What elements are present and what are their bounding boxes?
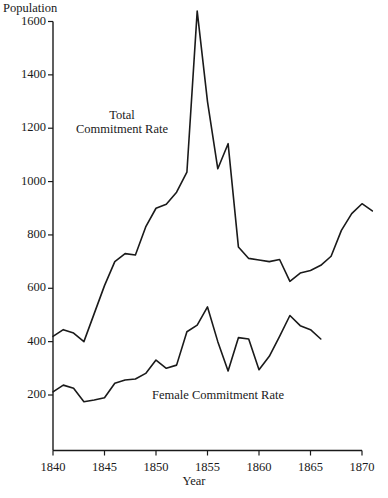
- axis-lines: [53, 22, 362, 451]
- y-tick-label: 400: [2, 334, 46, 349]
- y-tick-label: 1600: [2, 14, 46, 29]
- y-tick-label: 1000: [2, 174, 46, 189]
- x-tick-label: 1850: [134, 460, 178, 475]
- series-line: [53, 307, 321, 402]
- data-lines: [53, 11, 372, 402]
- x-tick-label: 1865: [289, 460, 333, 475]
- x-tick-label: 1860: [237, 460, 281, 475]
- x-tick-label: 1870: [340, 460, 384, 475]
- plot-area: [0, 0, 388, 498]
- y-tick-label: 200: [2, 387, 46, 402]
- x-tick-label: 1855: [186, 460, 230, 475]
- y-tick-label: 1200: [2, 120, 46, 135]
- x-tick-label: 1845: [83, 460, 127, 475]
- y-tick-label: 800: [2, 227, 46, 242]
- y-tick-label: 600: [2, 280, 46, 295]
- x-tick-label: 1840: [31, 460, 75, 475]
- y-tick-label: 1400: [2, 67, 46, 82]
- series-line: [53, 11, 372, 342]
- population-chart: Population Year Total Commitment Rate Fe…: [0, 0, 388, 498]
